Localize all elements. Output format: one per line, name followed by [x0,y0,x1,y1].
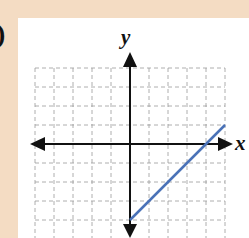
y-axis-down-arrow-icon [123,224,137,238]
plotted-line [130,125,225,220]
y-axis-up-arrow-icon [123,52,137,67]
x-axis-right-arrow-icon [218,137,233,151]
x-axis-label: x [234,131,246,155]
coordinate-plane: y x [0,0,249,238]
y-axis-label: y [118,25,131,49]
x-axis-left-arrow-icon [30,137,45,151]
